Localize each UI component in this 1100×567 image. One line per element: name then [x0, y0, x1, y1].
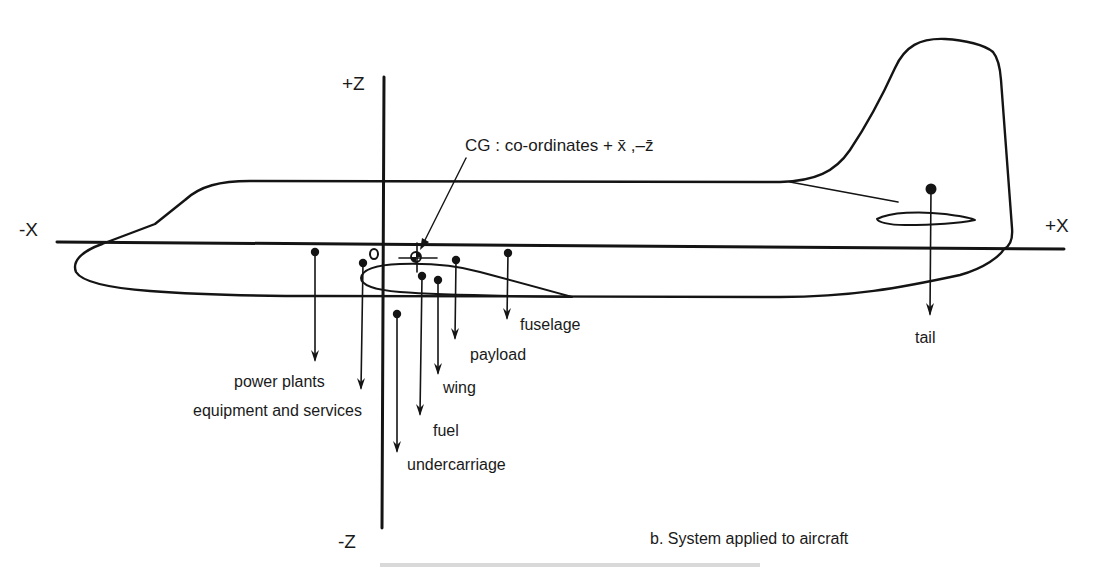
cg-leader-line: [424, 158, 466, 242]
label-wing: wing: [442, 379, 476, 396]
z-axis: [382, 77, 384, 528]
label-payload: payload: [470, 346, 526, 363]
cg-quadrant-fill: [416, 252, 421, 257]
x-axis: [57, 242, 1064, 249]
aircraft-outline: [75, 39, 1012, 297]
neg-z-label: -Z: [338, 531, 356, 552]
pos-x-label: +X: [1045, 215, 1069, 236]
cg-label: CG : co-ordinates + x̄ ,–z̄: [465, 136, 654, 155]
label-fuselage: fuselage: [520, 316, 581, 333]
pos-z-label: +Z: [342, 73, 365, 94]
origin-marker: [370, 249, 378, 259]
cropped-caption-fragment: [380, 563, 760, 567]
wing-airfoil: [361, 264, 572, 297]
weight-payload: payload: [451, 256, 526, 363]
weight-equipment-services: equipment and services: [193, 259, 367, 419]
cg-marker: CG : co-ordinates + x̄ ,–z̄: [399, 136, 654, 272]
horizontal-stabilizer: [877, 212, 975, 225]
weight-arrow-shaft: [930, 189, 931, 314]
label-equipment-services: equipment and services: [193, 402, 362, 419]
weight-tail: tail: [915, 184, 937, 347]
label-undercarriage: undercarriage: [407, 456, 506, 473]
weight-arrow-shaft: [507, 253, 508, 318]
subfigure-caption: b. System applied to aircraft: [650, 530, 849, 547]
neg-x-label: -X: [19, 219, 38, 240]
aircraft-cg-diagram: -X +X +Z -Z CG : co-ordinates + x̄ ,–z̄ …: [0, 0, 1100, 567]
tail-fillet-line: [790, 182, 898, 202]
label-power-plants: power plants: [234, 373, 325, 390]
weight-vectors: power plants equipment and services unde…: [193, 184, 937, 474]
cg-quadrant-fill: [411, 257, 416, 262]
weight-arrow-shaft: [455, 260, 456, 338]
weight-fuselage: fuselage: [503, 249, 581, 333]
weight-power-plants: power plants: [234, 248, 325, 390]
label-fuel: fuel: [433, 422, 459, 439]
label-tail: tail: [915, 329, 935, 346]
